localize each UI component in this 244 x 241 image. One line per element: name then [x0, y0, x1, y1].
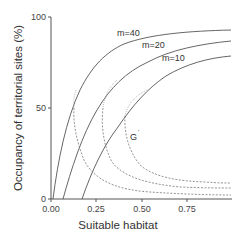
- x-tick-label: 0.50: [133, 204, 151, 214]
- y-axis-title: Occupancy of territorial sites (%): [12, 25, 24, 191]
- x-tick-label: 0.25: [87, 204, 105, 214]
- chart: 0 50 100 0.00 0.25 0.50 0.75 Suitable ha…: [0, 0, 244, 241]
- x-axis-title: Suitable habitat: [78, 219, 158, 231]
- x-tick-label: 0.75: [178, 204, 196, 214]
- dotted-branch-middle: [103, 80, 117, 108]
- g-prime-curve-middle: [102, 108, 231, 188]
- y-tick-labels: 0 50 100: [31, 12, 46, 204]
- label-m10: m=10: [162, 53, 185, 63]
- label-g-prime-mark: ': [138, 129, 139, 135]
- label-m20: m=20: [142, 40, 165, 50]
- curve-m40: [53, 30, 231, 199]
- y-tick-label: 50: [36, 103, 46, 113]
- label-m40: m=40: [117, 28, 140, 38]
- dashed-curves: [74, 108, 231, 195]
- curve-m10: [82, 56, 231, 199]
- y-tick-label: 100: [31, 12, 46, 22]
- x-tick-label: 0.00: [42, 204, 60, 214]
- x-tick-labels: 0.00 0.25 0.50 0.75: [42, 204, 196, 214]
- g-prime-curve-inner: [125, 116, 231, 183]
- dotted-connectors: [74, 80, 147, 116]
- label-g: G: [130, 132, 137, 142]
- y-tick-label: 0: [41, 194, 46, 204]
- solid-curves: [53, 30, 231, 199]
- curve-m20: [63, 41, 231, 199]
